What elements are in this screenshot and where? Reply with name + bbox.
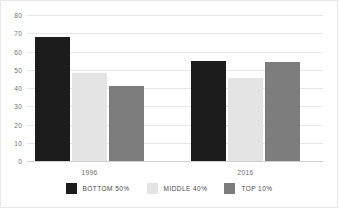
- bar-group-1996: [35, 15, 144, 161]
- legend-item[interactable]: TOP 10%: [224, 183, 272, 194]
- bar[interactable]: [72, 73, 107, 161]
- y-axis-tick-label: 20: [14, 121, 22, 128]
- bar[interactable]: [228, 78, 263, 161]
- y-axis-tick-label: 70: [14, 30, 22, 37]
- bar[interactable]: [265, 62, 300, 161]
- bar-groups: [27, 15, 323, 161]
- plot-area: 01020304050607080 19962016: [27, 15, 323, 161]
- chart-frame: 01020304050607080 19962016 BOTTOM 50%MID…: [0, 0, 338, 208]
- bar-group-2016: [191, 15, 300, 161]
- y-axis-tick-label: 50: [14, 66, 22, 73]
- bar[interactable]: [35, 37, 70, 161]
- chart-legend: BOTTOM 50%MIDDLE 40%TOP 10%: [1, 183, 337, 194]
- x-axis-label-1996: 1996: [81, 169, 97, 176]
- legend-item[interactable]: MIDDLE 40%: [147, 183, 208, 194]
- bar[interactable]: [191, 61, 226, 161]
- y-axis-tick-label: 60: [14, 48, 22, 55]
- y-axis-tick-label: 0: [18, 158, 22, 165]
- legend-swatch-icon: [147, 183, 158, 194]
- gridline-0: 0: [27, 161, 323, 162]
- y-axis-tick-label: 30: [14, 103, 22, 110]
- legend-label: MIDDLE 40%: [164, 185, 208, 192]
- y-axis-tick-label: 80: [14, 12, 22, 19]
- legend-label: TOP 10%: [241, 185, 272, 192]
- legend-label: BOTTOM 50%: [83, 185, 130, 192]
- bar[interactable]: [109, 86, 144, 161]
- x-axis-label-2016: 2016: [237, 169, 253, 176]
- y-axis-tick-label: 40: [14, 85, 22, 92]
- legend-swatch-icon: [66, 183, 77, 194]
- y-axis-tick-label: 10: [14, 139, 22, 146]
- legend-item[interactable]: BOTTOM 50%: [66, 183, 130, 194]
- legend-swatch-icon: [224, 183, 235, 194]
